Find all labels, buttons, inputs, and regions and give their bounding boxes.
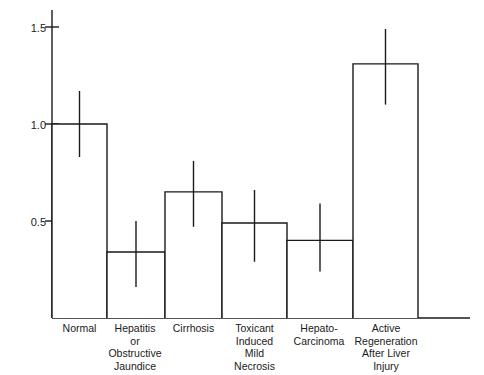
plot-area xyxy=(0,0,484,375)
bars-group xyxy=(52,64,418,318)
chart-container: Relative Biotransformation Ability 1.5 1… xyxy=(0,0,484,375)
